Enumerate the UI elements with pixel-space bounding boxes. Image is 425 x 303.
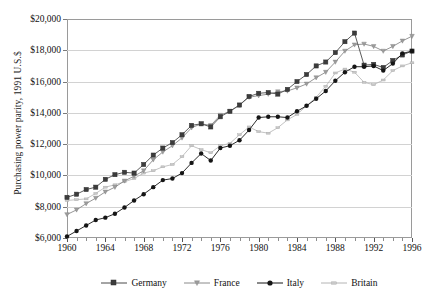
x-tick-minor bbox=[326, 238, 327, 241]
data-point bbox=[141, 192, 145, 196]
data-point bbox=[314, 76, 319, 80]
legend-item-france[interactable]: France bbox=[184, 278, 240, 288]
data-point bbox=[218, 146, 222, 150]
data-point bbox=[381, 68, 385, 72]
data-point bbox=[237, 103, 241, 107]
x-tick-minor bbox=[115, 238, 116, 241]
data-point bbox=[295, 109, 299, 113]
legend-label: Germany bbox=[131, 278, 166, 288]
legend-swatch-triangle-icon bbox=[184, 278, 210, 288]
data-point bbox=[74, 229, 78, 233]
data-point bbox=[304, 72, 308, 76]
x-tick-minor bbox=[96, 238, 97, 241]
data-point bbox=[276, 115, 280, 119]
data-point bbox=[103, 190, 108, 194]
data-point bbox=[333, 72, 337, 74]
data-point bbox=[343, 40, 347, 44]
data-point bbox=[324, 89, 328, 93]
data-point bbox=[161, 178, 165, 182]
data-point bbox=[400, 51, 404, 55]
series-layer bbox=[67, 19, 412, 238]
data-point bbox=[410, 62, 414, 64]
data-point bbox=[256, 115, 260, 119]
data-point bbox=[266, 115, 270, 119]
data-point bbox=[362, 65, 366, 69]
x-tick-label: 1960 bbox=[58, 243, 77, 253]
series-line bbox=[67, 63, 412, 201]
x-tick-major bbox=[182, 238, 183, 242]
x-tick-minor bbox=[230, 238, 231, 241]
x-tick-major bbox=[220, 238, 221, 242]
data-point bbox=[247, 128, 251, 132]
data-point bbox=[103, 177, 107, 181]
x-tick-minor bbox=[383, 238, 384, 241]
data-point bbox=[84, 198, 88, 200]
data-point bbox=[199, 149, 203, 151]
data-point bbox=[94, 218, 98, 222]
data-point bbox=[74, 192, 78, 196]
data-point bbox=[151, 170, 155, 172]
data-point bbox=[189, 161, 193, 165]
chart-legend: GermanyFranceItalyBritain bbox=[67, 274, 412, 292]
data-point bbox=[353, 71, 357, 73]
x-tick-major bbox=[412, 238, 413, 242]
y-tick-label: $6,000 bbox=[1, 233, 61, 243]
data-point bbox=[410, 34, 415, 38]
x-tick-minor bbox=[86, 238, 87, 241]
data-point bbox=[103, 215, 107, 219]
x-tick-minor bbox=[364, 238, 365, 241]
data-point bbox=[266, 132, 270, 134]
data-point bbox=[209, 158, 213, 162]
x-tick-minor bbox=[77, 238, 78, 241]
data-point bbox=[285, 115, 289, 119]
data-point bbox=[142, 162, 146, 166]
data-point bbox=[238, 134, 242, 136]
data-point bbox=[391, 70, 395, 72]
x-tick-minor bbox=[249, 238, 250, 241]
x-tick-minor bbox=[268, 238, 269, 241]
data-point bbox=[381, 49, 386, 53]
data-point bbox=[352, 65, 356, 69]
data-point bbox=[103, 186, 107, 188]
x-tick-major bbox=[144, 238, 145, 242]
data-point bbox=[304, 104, 308, 108]
data-point bbox=[171, 163, 175, 165]
data-point bbox=[237, 138, 241, 142]
data-point bbox=[381, 79, 385, 81]
y-tick-label: $10,000 bbox=[1, 170, 61, 180]
data-point bbox=[371, 44, 376, 48]
y-tick-label: $14,000 bbox=[1, 108, 61, 118]
data-point bbox=[65, 195, 69, 199]
data-point bbox=[257, 91, 261, 95]
data-point bbox=[161, 166, 165, 168]
data-point bbox=[295, 79, 299, 83]
x-tick-major bbox=[105, 238, 106, 242]
data-point bbox=[84, 202, 89, 206]
x-tick-minor bbox=[192, 238, 193, 241]
y-tick-label: $16,000 bbox=[1, 77, 61, 87]
data-point bbox=[190, 145, 194, 147]
data-point bbox=[314, 97, 318, 101]
data-point bbox=[228, 109, 232, 113]
legend-item-britain[interactable]: Britain bbox=[321, 278, 377, 288]
legend-item-germany[interactable]: Germany bbox=[101, 278, 166, 288]
data-point bbox=[74, 208, 79, 212]
x-tick-label: 1996 bbox=[403, 243, 422, 253]
y-tick-label: $8,000 bbox=[1, 202, 61, 212]
data-point bbox=[113, 185, 118, 189]
data-point bbox=[93, 196, 98, 200]
series-line bbox=[67, 33, 412, 197]
x-tick-label: 1972 bbox=[173, 243, 192, 253]
legend-item-italy[interactable]: Italy bbox=[257, 278, 304, 288]
x-axis-ticks: 1960196419681972197619801984198819921996 bbox=[67, 238, 412, 264]
x-tick-label: 1968 bbox=[134, 243, 153, 253]
data-point bbox=[94, 192, 98, 194]
x-tick-minor bbox=[316, 238, 317, 241]
data-point bbox=[65, 199, 69, 201]
x-tick-minor bbox=[287, 238, 288, 241]
data-point bbox=[324, 60, 328, 64]
data-point bbox=[276, 127, 280, 129]
data-point bbox=[75, 199, 79, 201]
legend-label: Britain bbox=[351, 278, 377, 288]
series-germany bbox=[65, 31, 414, 199]
